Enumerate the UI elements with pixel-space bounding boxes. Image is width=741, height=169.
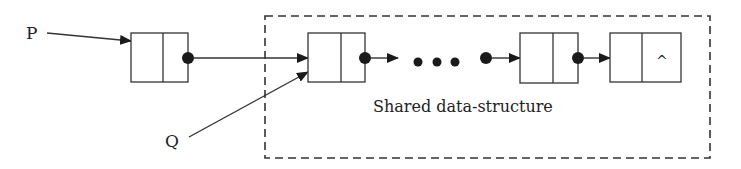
shared-region-label: Shared data-structure <box>373 97 553 116</box>
pointer-dot-icon <box>359 52 371 64</box>
ellipsis-icon <box>414 58 460 67</box>
null-marker: ^ <box>656 53 668 69</box>
pointer-q-label: Q <box>165 131 179 151</box>
pointer-q-arrow <box>189 72 308 137</box>
list-node <box>308 33 371 82</box>
list-node <box>131 33 194 82</box>
pointer-dot-icon <box>480 52 492 64</box>
linked-list-diagram: Shared data-structure P Q ^ <box>0 0 741 169</box>
pointer-p-label: P <box>26 23 37 43</box>
list-node <box>520 33 584 83</box>
pointer-dot-icon <box>182 52 194 64</box>
pointer-p-arrow <box>47 33 131 41</box>
pointer-dot-icon <box>572 52 584 64</box>
list-node-tail: ^ <box>610 33 681 82</box>
